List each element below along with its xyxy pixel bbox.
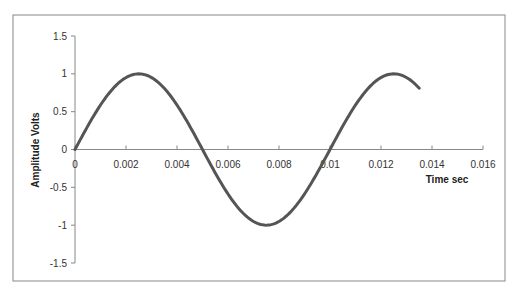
y-tick-label: 1.5 xyxy=(53,31,67,42)
x-tick-label: 0.012 xyxy=(368,159,393,170)
chart: 1.510.50-0.5-1-1.500.0020.0040.0060.0080… xyxy=(0,0,520,294)
chart-frame xyxy=(13,15,505,281)
x-tick-label: 0.006 xyxy=(215,159,240,170)
x-tick-label: 0.004 xyxy=(164,159,189,170)
y-tick-label: 0 xyxy=(61,144,67,155)
y-tick-label: 0.5 xyxy=(53,106,67,117)
x-axis-title: Time sec xyxy=(426,174,469,185)
y-tick-label: -1.5 xyxy=(50,258,68,269)
x-tick-label: 0.002 xyxy=(113,159,138,170)
x-tick-label: 0.016 xyxy=(470,159,495,170)
y-tick-label: 1 xyxy=(61,68,67,79)
y-tick-label: -1 xyxy=(58,220,67,231)
y-tick-label: -0.5 xyxy=(50,182,68,193)
x-tick-label: 0.008 xyxy=(266,159,291,170)
x-tick-label: 0 xyxy=(72,159,78,170)
x-tick-label: 0.014 xyxy=(419,159,444,170)
y-axis-title: Amplitude Volts xyxy=(30,112,41,188)
